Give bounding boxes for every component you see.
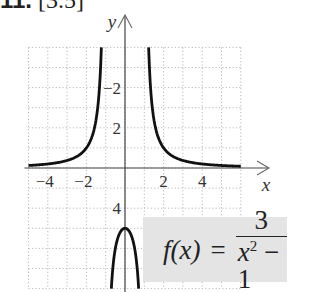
function-curve (149, 47, 241, 166)
formula-box: f(x) = 3 x2 − 1 (143, 217, 287, 282)
formula: f(x) = 3 x2 − 1 (163, 224, 287, 276)
formula-equals: = (210, 235, 225, 266)
x-tick-label: −4 (36, 172, 55, 191)
y-tick-label: −2 (103, 79, 121, 98)
formula-fraction: 3 x2 − 1 (236, 207, 287, 292)
x-tick-label: −2 (74, 172, 92, 191)
x-tick-label: 2 (159, 172, 168, 191)
y-axis-label: y (106, 11, 117, 32)
x-tick-label: 4 (198, 172, 207, 191)
y-tick-label: 2 (113, 119, 122, 138)
denominator-variable: x (238, 237, 250, 267)
y-tick-label: 4 (113, 199, 122, 218)
formula-lhs: f(x) (163, 235, 200, 266)
formula-denominator: x2 − 1 (236, 236, 287, 292)
formula-numerator: 3 (251, 207, 273, 236)
x-axis-label: x (261, 174, 271, 195)
